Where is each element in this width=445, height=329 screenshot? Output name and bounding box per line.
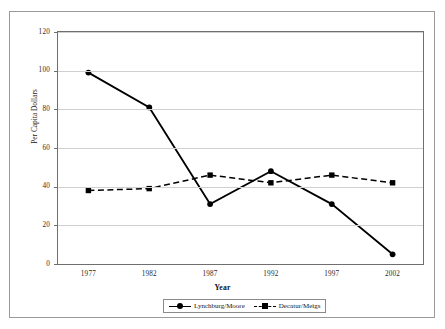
y-tick-label-20: 20 [16,221,50,229]
gridline-100 [58,71,423,72]
legend-label: Decatur/Meigs [279,302,321,310]
data-point[interactable] [329,172,334,177]
gridline-80 [58,109,423,110]
y-tick-label-0: 0 [16,260,50,268]
y-axis-title: Per Capita Dollars [30,57,39,177]
data-point[interactable] [268,168,274,174]
series-line-0 [88,73,392,255]
data-point[interactable] [207,201,213,207]
y-tick-label-80: 80 [16,105,50,113]
y-tick-label-120: 120 [16,28,50,36]
data-point[interactable] [268,180,273,185]
x-tick-label-1982: 1982 [127,270,171,278]
chart-legend[interactable]: Lynchburg/MooreDecatur/Meigs [163,299,326,313]
x-tick-label-1992: 1992 [249,270,293,278]
line-chart: Per Capita Dollars 020406080100120 19771… [0,0,445,329]
y-tick-label-40: 40 [16,182,50,190]
x-tick-label-2002: 2002 [371,270,415,278]
gridline-20 [58,225,423,226]
plot-area [57,31,424,265]
x-axis-title: Year [0,283,445,292]
legend-item-0[interactable]: Lynchburg/Moore [169,302,245,310]
gridline-60 [58,148,423,149]
data-point[interactable] [86,188,91,193]
chart-page: Per Capita Dollars 020406080100120 19771… [0,0,445,329]
x-tick-label-1977: 1977 [66,270,110,278]
gridline-120 [58,32,423,33]
gridline-40 [58,187,423,188]
y-tick-label-60: 60 [16,144,50,152]
legend-label: Lynchburg/Moore [194,302,245,310]
x-tick-label-1997: 1997 [310,270,354,278]
legend-swatch-circle-icon [169,302,191,310]
x-tick-label-1987: 1987 [188,270,232,278]
legend-swatch-square-icon [254,302,276,310]
data-point[interactable] [329,201,335,207]
data-point[interactable] [390,180,395,185]
data-point[interactable] [207,172,212,177]
y-tick-label-100: 100 [16,66,50,74]
data-point[interactable] [390,251,396,257]
legend-item-1[interactable]: Decatur/Meigs [254,302,321,310]
